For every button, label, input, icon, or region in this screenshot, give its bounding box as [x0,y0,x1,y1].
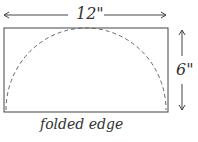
folded-edge-label: folded edge [40,116,123,132]
semicircle-cut-line [6,28,166,110]
fabric-rectangle [4,28,168,112]
height-label: 6" [176,60,194,79]
width-label: 12" [76,4,104,23]
